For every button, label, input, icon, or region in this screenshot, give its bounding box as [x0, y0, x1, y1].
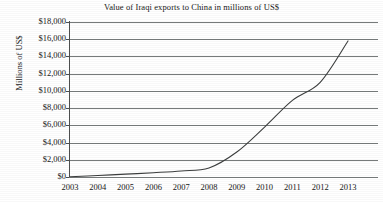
- x-axis-tick-label: 2013: [328, 181, 368, 193]
- x-axis-line: [69, 177, 378, 178]
- gridline: [70, 91, 378, 92]
- y-axis-tick-label: $4,000: [4, 138, 66, 147]
- y-axis-tick-label: $2,000: [4, 155, 66, 164]
- plot-area: [70, 22, 378, 177]
- gridline: [70, 160, 378, 161]
- gridlines-group: [70, 22, 378, 177]
- gridline: [70, 22, 378, 23]
- y-axis-tick-label: $0: [4, 172, 66, 181]
- y-axis-tick-label: $16,000: [4, 34, 66, 43]
- y-axis-tick-label: $18,000: [4, 17, 66, 26]
- gridline: [70, 125, 378, 126]
- gridline: [70, 56, 378, 57]
- gridline: [70, 74, 378, 75]
- y-axis-tick-label: $8,000: [4, 103, 66, 112]
- gridline: [70, 143, 378, 144]
- y-axis-tick-label: $6,000: [4, 120, 66, 129]
- gridline: [70, 108, 378, 109]
- gridline: [70, 39, 378, 40]
- chart-figure: Value of Iraqi exports to China in milli…: [0, 0, 383, 202]
- y-axis-tick-labels: $0$2,000$4,000$6,000$8,000$10,000$12,000…: [0, 0, 66, 202]
- y-axis-tick-label: $10,000: [4, 86, 66, 95]
- y-axis-tick-label: $14,000: [4, 51, 66, 60]
- x-axis-tick-labels: 2003200420052006200720082009201020112012…: [70, 181, 378, 195]
- y-axis-tick-label: $12,000: [4, 69, 66, 78]
